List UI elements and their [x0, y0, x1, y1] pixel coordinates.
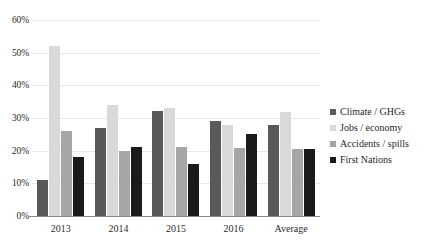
bar-jobs-economy-2015[interactable] [164, 108, 175, 216]
y-tick-label-10%: 10% [12, 178, 29, 188]
bar-chart: 0%10%20%30%40%50%60% 2013201420152016Ave… [0, 0, 427, 248]
x-tick-label-2015: 2015 [147, 218, 205, 240]
bar-group-2015 [147, 20, 205, 216]
bar-jobs-economy-2013[interactable] [49, 46, 60, 216]
bar-climate-ghgs-2016[interactable] [210, 121, 221, 216]
legend-item-first-nations[interactable]: First Nations [330, 152, 426, 168]
bar-first-nations-2013[interactable] [73, 157, 84, 216]
y-axis: 0%10%20%30%40%50%60% [0, 0, 32, 248]
bar-climate-ghgs-2014[interactable] [95, 128, 106, 216]
plot-area [32, 20, 320, 216]
bar-accidents-spills-2015[interactable] [176, 147, 187, 216]
bar-first-nations-Average[interactable] [304, 149, 315, 216]
legend-item-climate-ghgs[interactable]: Climate / GHGs [330, 104, 426, 120]
bar-jobs-economy-2016[interactable] [222, 125, 233, 216]
bar-group-2013 [32, 20, 90, 216]
y-tick-label-30%: 30% [12, 113, 29, 123]
bar-climate-ghgs-2013[interactable] [37, 180, 48, 216]
bar-accidents-spills-Average[interactable] [292, 149, 303, 216]
axis-baseline [32, 216, 320, 217]
bar-accidents-spills-2013[interactable] [61, 131, 72, 216]
y-tick-label-50%: 50% [12, 48, 29, 58]
legend-label-accidents-spills: Accidents / spills [340, 139, 409, 149]
bar-first-nations-2014[interactable] [131, 147, 142, 216]
bar-accidents-spills-2016[interactable] [234, 148, 245, 216]
bar-jobs-economy-2014[interactable] [107, 105, 118, 216]
bar-groups [32, 20, 320, 216]
legend-swatch-jobs-economy [330, 125, 336, 131]
legend-swatch-accidents-spills [330, 141, 336, 147]
y-tick-label-60%: 60% [12, 15, 29, 25]
x-tick-label-2013: 2013 [32, 218, 90, 240]
bar-accidents-spills-2014[interactable] [119, 151, 130, 216]
bar-climate-ghgs-2015[interactable] [152, 111, 163, 216]
bar-first-nations-2015[interactable] [188, 164, 199, 216]
bar-jobs-economy-Average[interactable] [280, 112, 291, 216]
y-tick-label-40%: 40% [12, 80, 29, 90]
legend-swatch-first-nations [330, 157, 336, 163]
legend-item-jobs-economy[interactable]: Jobs / economy [330, 120, 426, 136]
x-axis: 2013201420152016Average [32, 218, 320, 240]
y-tick-label-20%: 20% [12, 146, 29, 156]
x-tick-label-2016: 2016 [205, 218, 263, 240]
legend-label-first-nations: First Nations [340, 155, 392, 165]
bar-climate-ghgs-Average[interactable] [268, 125, 279, 216]
bar-first-nations-2016[interactable] [246, 134, 257, 216]
legend-swatch-climate-ghgs [330, 109, 336, 115]
chart-legend: Climate / GHGsJobs / economyAccidents / … [330, 104, 426, 168]
x-tick-label-2014: 2014 [90, 218, 148, 240]
bar-group-2014 [90, 20, 148, 216]
bar-group-Average [262, 20, 320, 216]
x-tick-label-Average: Average [262, 218, 320, 240]
legend-label-climate-ghgs: Climate / GHGs [340, 107, 405, 117]
legend-item-accidents-spills[interactable]: Accidents / spills [330, 136, 426, 152]
legend-label-jobs-economy: Jobs / economy [340, 123, 402, 133]
bar-group-2016 [205, 20, 263, 216]
